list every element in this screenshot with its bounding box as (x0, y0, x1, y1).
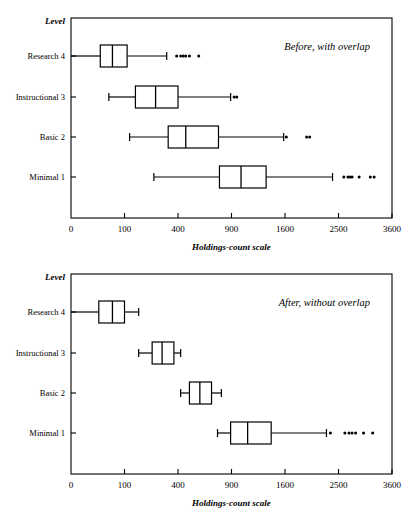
outlier-point (347, 432, 350, 435)
outlier-point (371, 432, 374, 435)
outlier-point (188, 55, 191, 58)
outlier-point (354, 432, 357, 435)
outlier-point (235, 96, 238, 99)
boxplot-before-3 (130, 126, 312, 148)
outlier-point (351, 432, 354, 435)
x-axis-tick-label: 0 (69, 224, 74, 234)
x-axis-tick-label: 100 (118, 480, 132, 490)
x-axis-tick-label: 1600 (276, 224, 295, 234)
outlier-point (197, 55, 200, 58)
x-axis-tick-label: 1600 (276, 480, 295, 490)
x-axis-tick-label: 0 (69, 480, 74, 490)
x-axis-tick-label: 100 (118, 224, 132, 234)
level-axis-header: Level (44, 272, 65, 282)
outlier-point (285, 136, 288, 139)
outlier-point (184, 55, 187, 58)
x-axis-tick-label: 400 (171, 224, 185, 234)
outlier-point (233, 96, 236, 99)
box (135, 86, 178, 108)
boxplot-after-2 (139, 342, 181, 364)
outlier-point (358, 176, 361, 179)
category-label: Instructional 3 (16, 92, 65, 102)
category-label: Instructional 3 (16, 348, 65, 358)
box (100, 45, 127, 67)
x-axis-tick-label: 3600 (383, 480, 402, 490)
category-label: Basic 2 (40, 388, 65, 398)
outlier-point (373, 176, 376, 179)
boxplot-before-2 (109, 86, 238, 108)
chart-panel-after: 0100400900160025003600Research 4Instruct… (0, 256, 414, 512)
box (168, 126, 218, 148)
outlier-point (362, 432, 365, 435)
x-axis-tick-label: 900 (225, 224, 239, 234)
outlier-point (342, 176, 345, 179)
outlier-point (308, 136, 311, 139)
box (152, 342, 174, 364)
chart-panel-before: 0100400900160025003600Research 4Instruct… (0, 0, 414, 256)
x-axis-tick-label: 2500 (330, 224, 349, 234)
panel-annotation: After, without overlap (278, 297, 370, 308)
outlier-point (175, 55, 178, 58)
x-axis-tick-label: 3600 (383, 224, 402, 234)
box (231, 422, 272, 444)
figure-page: 0100400900160025003600Research 4Instruct… (0, 0, 414, 513)
x-axis-tick-label: 900 (225, 480, 239, 490)
box (99, 301, 125, 323)
boxplot-after-3 (181, 382, 222, 404)
panel-annotation: Before, with overlap (284, 41, 370, 52)
category-label: Research 4 (27, 307, 65, 317)
boxplot-before-4 (154, 166, 376, 188)
outlier-point (329, 432, 332, 435)
boxplot-after-4 (218, 422, 375, 444)
category-label: Minimal 1 (29, 428, 65, 438)
boxplot-before-1 (71, 45, 200, 67)
category-label: Basic 2 (40, 132, 65, 142)
plot-area-before: 0100400900160025003600Research 4Instruct… (0, 0, 414, 256)
outlier-point (351, 176, 354, 179)
level-axis-header: Level (44, 16, 65, 26)
plot-area-after: 0100400900160025003600Research 4Instruct… (0, 256, 414, 512)
x-axis-tick-label: 400 (171, 480, 185, 490)
boxplot-after-1 (71, 301, 139, 323)
outlier-point (343, 432, 346, 435)
x-axis-label: Holdings-count scale (191, 242, 271, 252)
outlier-point (179, 55, 182, 58)
x-axis-label: Holdings-count scale (191, 498, 271, 508)
box (219, 166, 266, 188)
outlier-point (305, 136, 308, 139)
outlier-point (369, 176, 372, 179)
x-axis-tick-label: 2500 (330, 480, 349, 490)
category-label: Research 4 (27, 51, 65, 61)
category-label: Minimal 1 (29, 172, 65, 182)
